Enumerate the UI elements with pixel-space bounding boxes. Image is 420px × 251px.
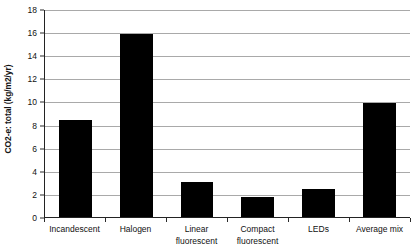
- bars-layer: [45, 10, 410, 217]
- plot-area: [44, 10, 410, 218]
- bar-slot: [167, 10, 228, 217]
- x-category-label: Halogen: [105, 224, 166, 251]
- x-tick-mark: [44, 218, 45, 222]
- x-category-label-line: Compact: [228, 224, 287, 236]
- x-axis-category-labels: IncandescentHalogenLinearfluorescentComp…: [44, 224, 410, 251]
- x-axis-tick-marks: [44, 218, 410, 223]
- y-tick-label: 12: [28, 74, 37, 84]
- bar-slot: [106, 10, 167, 217]
- y-tick-label: 14: [28, 51, 37, 61]
- bar-slot: [349, 10, 410, 217]
- bar[interactable]: [181, 182, 214, 217]
- y-tick-label: 18: [28, 5, 37, 15]
- bar[interactable]: [363, 103, 396, 217]
- x-category-label-line: LEDs: [289, 224, 348, 236]
- y-tick-label: 8: [32, 121, 37, 131]
- bar[interactable]: [59, 120, 92, 217]
- y-tick-label: 4: [32, 167, 37, 177]
- x-category-label: Compactfluorescent: [227, 224, 288, 251]
- x-category-label: LEDs: [288, 224, 349, 251]
- x-category-label-line: fluorescent: [167, 236, 226, 248]
- bar[interactable]: [241, 197, 274, 217]
- y-tick-label: 10: [28, 97, 37, 107]
- bar-chart: CO2-e: total (kg/m2/yr) 024681012141618 …: [0, 0, 420, 251]
- x-tick-mark: [227, 218, 228, 222]
- y-axis-title: CO2-e: total (kg/m2/yr): [0, 0, 16, 218]
- y-tick-label: 16: [28, 28, 37, 38]
- x-category-label-line: Halogen: [106, 224, 165, 236]
- bar[interactable]: [120, 34, 153, 217]
- x-category-label: Average mix: [349, 224, 410, 251]
- bar-slot: [227, 10, 288, 217]
- y-axis-tick-labels: 024681012141618: [16, 10, 40, 218]
- bar[interactable]: [302, 189, 335, 217]
- x-category-label: Linearfluorescent: [166, 224, 227, 251]
- x-category-label-line: Incandescent: [45, 224, 104, 236]
- x-tick-mark: [349, 218, 350, 222]
- y-tick-label: 0: [32, 213, 37, 223]
- y-tick-label: 6: [32, 144, 37, 154]
- bar-slot: [288, 10, 349, 217]
- bar-slot: [45, 10, 106, 217]
- x-tick-mark: [166, 218, 167, 222]
- x-tick-mark: [105, 218, 106, 222]
- y-tick-label: 2: [32, 190, 37, 200]
- x-category-label-line: fluorescent: [228, 236, 287, 248]
- x-category-label: Incandescent: [44, 224, 105, 251]
- x-category-label-line: Linear: [167, 224, 226, 236]
- x-category-label-line: Average mix: [350, 224, 409, 236]
- x-tick-mark: [288, 218, 289, 222]
- x-tick-mark: [410, 218, 411, 222]
- y-axis-title-text: CO2-e: total (kg/m2/yr): [3, 65, 13, 154]
